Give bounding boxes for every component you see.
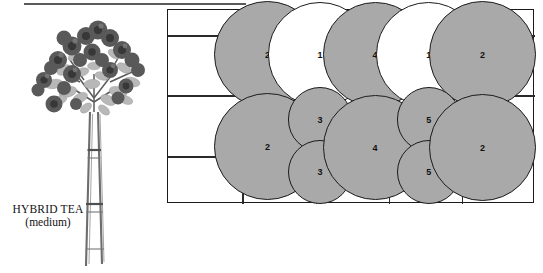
planting-spacing-grid: 214122334552 [167,9,534,203]
plant-circle-label: 5 [426,167,431,177]
plant-circle-label: 5 [426,115,431,125]
plant-circle-label: 3 [318,167,323,177]
caption-line-secondary: (medium) [2,216,94,229]
plant-circle-label: 4 [373,143,378,153]
plant-circle-label: 2 [480,50,485,60]
plant-circle-label: 2 [265,142,270,152]
plant-caption: HYBRID TEA (medium) [2,203,94,229]
caption-line-primary: HYBRID TEA [2,203,94,216]
plant-circle-label: 2 [480,143,485,153]
grid-circles-layer: 214122334552 [168,10,533,202]
plant-circle-label: 1 [318,50,323,60]
plant-circle-label: 3 [318,115,323,125]
top-horizontal-rule [24,3,246,5]
plant-circle-2: 2 [429,94,536,201]
rose-bush-illustration [14,8,154,270]
